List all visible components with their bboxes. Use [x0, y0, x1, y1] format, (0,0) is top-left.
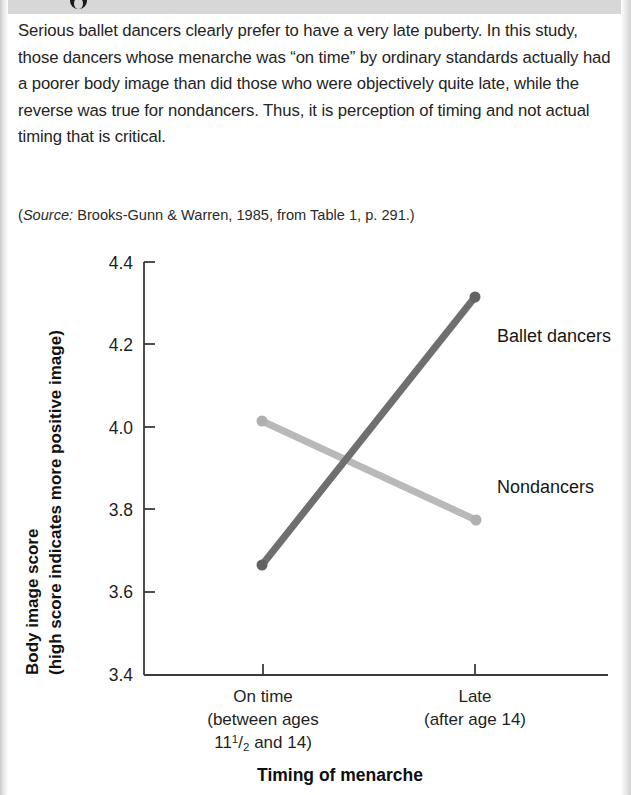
x-axis-ticks: [263, 664, 475, 675]
ballet-dancers-point-late: [470, 292, 481, 303]
x-category-label-on-time: On time: [233, 687, 293, 706]
series-label-nondancers: Nondancers: [497, 477, 594, 497]
page-top-edge: [0, 0, 631, 14]
y-tick-label-4-2: 4.2: [109, 335, 133, 355]
y-tick-label-3-4: 3.4: [109, 665, 134, 685]
frac-suffix: and 14): [249, 733, 311, 752]
nondancers-point-on-time: [257, 416, 268, 427]
caption-paragraph: Serious ballet dancers clearly prefer to…: [18, 18, 613, 151]
y-tick-label-3-8: 3.8: [109, 500, 133, 520]
y-tick-label-4-4: 4.4: [109, 253, 134, 273]
y-axis-title-line1: Body image score: [23, 529, 42, 675]
y-tick-label-4-0: 4.0: [109, 418, 134, 438]
y-tick-label-3-6: 3.6: [109, 582, 133, 602]
x-category-sublabel-on-time-line1: (between ages: [207, 710, 319, 729]
y-axis-title: Body image score (high score indicates m…: [23, 330, 65, 675]
ballet-dancers-line: [262, 297, 475, 565]
y-axis-ticks: [144, 262, 155, 592]
x-category-label-late: Late: [458, 687, 491, 706]
ballet-dancers-point-on-time: [257, 560, 268, 571]
source-line: (Source: Brooks-Gunn & Warren, 1985, fro…: [18, 205, 613, 225]
chart-area: Body image score (high score indicates m…: [0, 236, 631, 795]
frac-prefix: 11: [214, 733, 232, 752]
x-category-sublabel-late-line1: (after age 14): [424, 710, 526, 729]
series-label-ballet-dancers: Ballet dancers: [497, 326, 611, 346]
source-label: Source:: [23, 207, 73, 223]
y-axis-title-line2: (high score indicates more positive imag…: [46, 330, 65, 675]
source-citation: Brooks-Gunn & Warren, 1985, from Table 1…: [73, 207, 415, 223]
x-axis-title: Timing of menarche: [257, 765, 423, 785]
figure-page: Serious ballet dancers clearly prefer to…: [0, 0, 631, 795]
x-category-sublabel-on-time-line2: 111/2 and 14): [214, 733, 312, 753]
nondancers-point-late: [471, 515, 482, 526]
line-chart: Body image score (high score indicates m…: [0, 236, 631, 795]
